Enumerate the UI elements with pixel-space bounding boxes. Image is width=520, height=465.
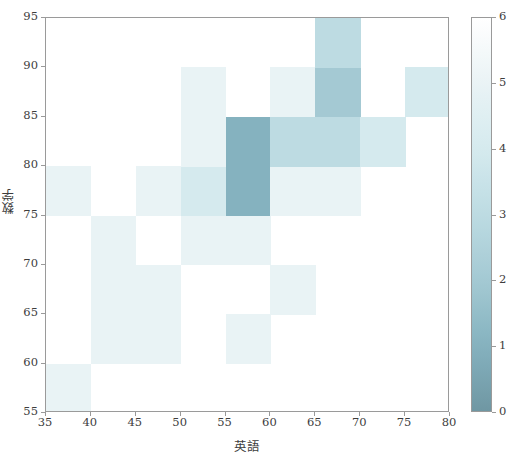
heatmap-cell — [315, 166, 360, 216]
heatmap-cell — [91, 265, 136, 315]
y-tick-label: 55 — [18, 406, 38, 418]
colorbar-tick-mark — [492, 412, 496, 413]
heatmap-cells — [46, 18, 448, 411]
colorbar-tick-mark — [492, 215, 496, 216]
heatmap-cell — [46, 364, 91, 412]
y-tick-label: 70 — [18, 258, 38, 270]
x-tick-label: 65 — [299, 417, 329, 429]
x-tick-label: 45 — [120, 417, 150, 429]
colorbar-tick-mark — [492, 149, 496, 150]
x-tick-label: 60 — [254, 417, 284, 429]
heatmap-cell — [315, 117, 360, 167]
colorbar-tick-label: 2 — [499, 274, 506, 286]
colorbar-gradient — [472, 18, 491, 411]
y-tick-label: 95 — [18, 11, 38, 23]
heatmap-cell — [226, 166, 271, 216]
heatmap-cell — [270, 265, 315, 315]
heatmap-cell — [360, 117, 405, 167]
heatmap-cell — [136, 265, 181, 315]
heatmap-cell — [315, 67, 360, 117]
y-tick-label: 65 — [18, 307, 38, 319]
colorbar-tick-mark — [492, 17, 496, 18]
x-tick-label: 35 — [30, 417, 60, 429]
x-tick-label: 75 — [389, 417, 419, 429]
x-tick-label: 80 — [434, 417, 464, 429]
x-tick-label: 50 — [165, 417, 195, 429]
heatmap-cell — [226, 314, 271, 364]
heatmap-cell — [270, 117, 315, 167]
x-tick-label: 70 — [344, 417, 374, 429]
y-tick-label: 90 — [18, 60, 38, 72]
heatmap-cell — [181, 67, 226, 117]
heatmap-cell — [226, 216, 271, 266]
heatmap-cell — [91, 216, 136, 266]
heatmap-cell — [270, 67, 315, 117]
colorbar[interactable] — [471, 17, 492, 412]
colorbar-tick-mark — [492, 280, 496, 281]
heatmap-cell — [270, 166, 315, 216]
y-axis-label: 数学 — [2, 188, 15, 214]
heatmap-cell — [136, 166, 181, 216]
heatmap-cell — [181, 216, 226, 266]
x-axis-label: 英語 — [45, 436, 449, 455]
heatmap-cell — [226, 117, 271, 167]
heatmap-cell — [181, 166, 226, 216]
plot-area[interactable] — [45, 17, 449, 412]
colorbar-tick-mark — [492, 346, 496, 347]
heatmap-figure: 数学 556065707580859095 354045505560657075… — [0, 0, 520, 465]
x-tick-label: 55 — [210, 417, 240, 429]
heatmap-cell — [181, 117, 226, 167]
x-tick-label: 40 — [75, 417, 105, 429]
colorbar-tick-label: 1 — [499, 340, 506, 352]
y-tick-label: 85 — [18, 110, 38, 122]
heatmap-cell — [136, 314, 181, 364]
y-tick-label: 80 — [18, 159, 38, 171]
heatmap-cell — [315, 18, 360, 68]
colorbar-tick-label: 0 — [499, 406, 506, 418]
heatmap-cell — [91, 314, 136, 364]
colorbar-tick-label: 3 — [499, 209, 506, 221]
colorbar-tick-label: 4 — [499, 143, 506, 155]
heatmap-cell — [46, 166, 91, 216]
y-tick-label: 60 — [18, 357, 38, 369]
heatmap-cell — [405, 67, 449, 117]
y-tick-label: 75 — [18, 209, 38, 221]
colorbar-tick-mark — [492, 83, 496, 84]
colorbar-tick-label: 6 — [499, 11, 506, 23]
colorbar-tick-label: 5 — [499, 77, 506, 89]
